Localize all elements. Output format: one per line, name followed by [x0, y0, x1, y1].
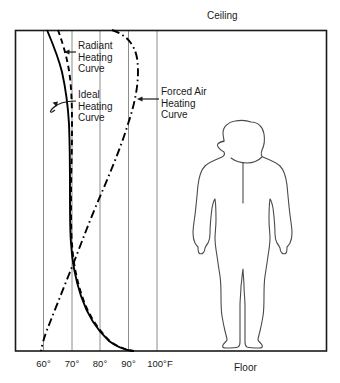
- human-figure: [193, 120, 292, 348]
- heating-curves-svg: [0, 0, 340, 383]
- annotation-forced-air-heating-curve: Forced Air Heating Curve: [161, 86, 207, 121]
- xtick-label-80: 80°: [93, 358, 107, 369]
- xtick-label-70: 70°: [65, 358, 79, 369]
- xtick-label-100: 100°F: [147, 358, 172, 369]
- curve-ideal: [47, 30, 133, 351]
- leader-forced-air: [137, 96, 159, 101]
- room-frame: [16, 31, 327, 352]
- floor-label: Floor: [234, 362, 257, 374]
- xtick-label-90: 90°: [121, 358, 135, 369]
- curve-forced-air: [41, 30, 138, 351]
- annotation-radiant-heating-curve: Radiant Heating Curve: [78, 40, 112, 75]
- diagram-canvas: Ceiling Floor 60° 70° 80° 90° 100°F Radi…: [0, 0, 340, 383]
- ceiling-label: Ceiling: [207, 10, 238, 22]
- xtick-label-60: 60°: [36, 358, 50, 369]
- leader-radiant: [64, 49, 76, 54]
- gridlines: [44, 30, 158, 351]
- annotation-ideal-heating-curve: Ideal Heating Curve: [78, 89, 112, 124]
